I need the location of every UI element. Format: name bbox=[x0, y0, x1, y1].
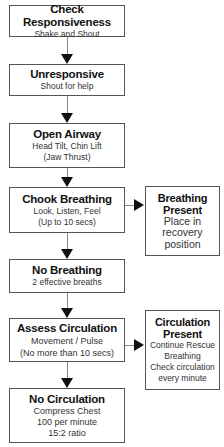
arrow-down-icon bbox=[61, 308, 73, 318]
step-text: Breathing bbox=[146, 351, 219, 362]
step-title: No Circulation bbox=[10, 393, 124, 406]
step-text: Continue Rescue bbox=[146, 340, 219, 351]
step-title: Open Airway bbox=[10, 128, 124, 141]
arrow-down-icon bbox=[61, 113, 73, 123]
step-circulation-present: Circulation Present Continue Rescue Brea… bbox=[145, 310, 220, 390]
step-text: position bbox=[146, 239, 219, 251]
step-open-airway: Open Airway Head Tilt, Chin Lift (Jaw Th… bbox=[9, 123, 125, 168]
step-title: Present bbox=[146, 204, 219, 216]
step-check-responsiveness: Check Responsiveness Shake and Shout bbox=[9, 5, 125, 37]
step-title: Breathing bbox=[146, 192, 219, 204]
step-text: Shake and Shout bbox=[10, 29, 124, 40]
step-assess-circulation: Assess Circulation Movement / Pulse (No … bbox=[9, 318, 125, 362]
step-unresponsive: Unresponsive Shout for help bbox=[9, 64, 125, 96]
step-check-breathing: Chook Breathing Look, Listen, Feel (Up t… bbox=[9, 187, 125, 233]
step-title: No Breathing bbox=[10, 264, 124, 277]
step-text: 15:2 ratio bbox=[10, 428, 124, 439]
step-no-breathing: No Breathing 2 effective breaths bbox=[9, 259, 125, 293]
step-text: 2 effective breaths bbox=[10, 277, 124, 288]
step-text: Movement / Pulse bbox=[10, 335, 124, 347]
step-text: 100 per minute bbox=[10, 417, 124, 428]
step-title: Chook Breathing bbox=[10, 193, 124, 206]
step-text: (Up to 10 secs) bbox=[10, 217, 124, 228]
step-title: Unresponsive bbox=[10, 68, 124, 81]
step-text: (Jaw Thrust) bbox=[10, 152, 124, 163]
arrow-down-icon bbox=[61, 54, 73, 64]
step-text: Check circulation bbox=[146, 362, 219, 373]
arrow-down-icon bbox=[61, 249, 73, 259]
step-title: Present bbox=[146, 328, 219, 340]
step-text: Compress Chest bbox=[10, 406, 124, 417]
step-text: Head Tilt, Chin Lift bbox=[10, 141, 124, 152]
step-title: Assess Circulation bbox=[10, 322, 124, 335]
arrow-down-icon bbox=[61, 177, 73, 187]
step-breathing-present: Breathing Present Place in recovery posi… bbox=[145, 186, 220, 256]
step-text: (No more than 10 secs) bbox=[10, 347, 124, 359]
arrow-right-icon bbox=[134, 199, 144, 211]
step-text: Shout for help bbox=[10, 81, 124, 92]
step-no-circulation: No Circulation Compress Chest 100 per mi… bbox=[9, 388, 125, 443]
step-text: every minute bbox=[146, 373, 219, 384]
step-title: Check Responsiveness bbox=[10, 3, 124, 29]
step-text: Look, Listen, Feel bbox=[10, 206, 124, 217]
arrow-down-icon bbox=[61, 378, 73, 388]
step-title: Circulation bbox=[146, 316, 219, 328]
arrow-right-icon bbox=[134, 339, 144, 351]
